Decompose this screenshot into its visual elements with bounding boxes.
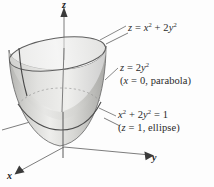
label-surface-equation: z = x2 + 2y2 — [128, 22, 177, 35]
surface-lhs: z — [128, 22, 132, 33]
y-axis-line — [64, 147, 150, 155]
ellipse-cond-var: z — [122, 122, 126, 133]
parabola-cond-var: x — [124, 75, 129, 86]
axis-label-y: y — [152, 152, 156, 163]
surface-plus: + — [155, 22, 161, 33]
ellipse-t1-exp: 2 — [123, 108, 126, 115]
ellipse-line-1: x2 + 2y2 = 1 — [118, 109, 180, 122]
elliptic-paraboloid-figure: z = x2 + 2y2 z = 2y2 (x = 0, parabola) x… — [0, 0, 214, 187]
parabola-exp: 2 — [146, 61, 149, 68]
parabola-cond-val: 0, parabola) — [140, 75, 191, 86]
ellipse-t2-exp: 2 — [148, 108, 151, 115]
x-axis-line — [18, 147, 64, 172]
guide-line-left — [2, 122, 30, 130]
axis-label-z: z — [62, 0, 66, 10]
surface-term1-exp: 2 — [148, 21, 151, 28]
surface-eq: = — [135, 22, 141, 33]
surface-term2-exp: 2 — [173, 21, 176, 28]
ellipse-line-2: (z = 1, ellipse) — [118, 122, 180, 135]
figure-graphics — [0, 0, 214, 187]
axis-label-x: x — [7, 170, 12, 181]
label-parabola-trace: z = 2y2 (x = 0, parabola) — [120, 62, 191, 88]
leader-line-parabola — [105, 68, 118, 80]
leader-line-surface — [100, 26, 126, 40]
parabola-eq: = — [127, 62, 133, 73]
label-ellipse-trace: x2 + 2y2 = 1 (z = 1, ellipse) — [118, 109, 180, 135]
leader-line-ellipse — [99, 108, 116, 116]
ellipse-cond-eq: = — [129, 122, 135, 133]
x-axis-arrowhead — [15, 166, 25, 175]
ellipse-cond-val: 1, ellipse) — [137, 122, 180, 133]
ellipse-eq: = 1 — [154, 109, 168, 120]
parabola-line-1: z = 2y2 — [120, 62, 191, 75]
parabola-lhs: z — [120, 62, 124, 73]
parabola-cond-eq: = — [131, 75, 137, 86]
ellipse-plus: + — [129, 109, 135, 120]
parabola-line-2: (x = 0, parabola) — [120, 75, 191, 88]
